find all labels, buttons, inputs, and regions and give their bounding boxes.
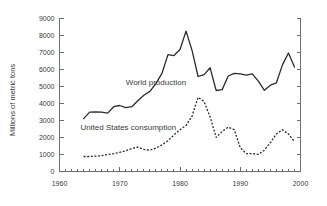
y-tick-label: 1000: [39, 151, 55, 158]
chart-container: Millions of metric tons 0100020003000400…: [0, 0, 327, 206]
series-line-world-production: [84, 31, 295, 119]
y-tick-label: 5000: [39, 83, 55, 90]
y-tick-label: 4000: [39, 100, 55, 107]
x-tick-label: 1990: [232, 180, 248, 187]
y-tick-label: 6000: [39, 66, 55, 73]
y-tick-label: 3000: [39, 117, 55, 124]
y-axis-ticks: [60, 18, 64, 172]
y-tick-label: 8000: [39, 32, 55, 39]
right-axis-ticks: [297, 18, 301, 172]
y-tick-label: 2000: [39, 134, 55, 141]
y-axis-title: Millions of metric tons: [8, 64, 17, 136]
y-tick-label: 0: [51, 168, 55, 175]
x-axis-tick-labels: 19601970198019902000: [52, 180, 309, 187]
y-axis-tick-labels: 0100020003000400050006000700080009000: [39, 15, 55, 176]
y-tick-label: 7000: [39, 49, 55, 56]
x-tick-label: 1980: [172, 180, 188, 187]
x-tick-label: 1970: [112, 180, 128, 187]
x-tick-label: 1960: [52, 180, 68, 187]
line-chart: Millions of metric tons 0100020003000400…: [0, 0, 327, 206]
series-label-us-consumption: United States consumption: [81, 123, 177, 132]
y-tick-label: 9000: [39, 15, 55, 22]
series-label-world-production: World production: [126, 78, 186, 87]
x-tick-label: 2000: [293, 180, 309, 187]
